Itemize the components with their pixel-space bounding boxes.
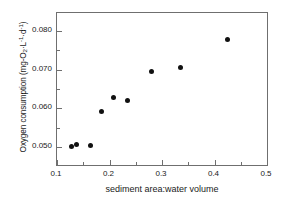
x-axis-tick-label: 0.3	[141, 169, 181, 179]
y-axis-tick-major	[57, 147, 62, 148]
x-axis-tick-major	[57, 160, 58, 165]
y-axis-tick-minor	[57, 128, 60, 129]
y-axis-tick-label: 0.070	[22, 65, 52, 73]
x-axis-tick-label: 0.1	[36, 169, 76, 179]
x-axis-title: sediment area:water volume	[56, 184, 268, 195]
data-point	[99, 109, 104, 114]
data-point	[74, 142, 79, 147]
x-axis-tick-minor	[241, 162, 242, 165]
y-axis-tick-label: 0.060	[22, 103, 52, 111]
x-axis-tick-minor	[188, 162, 189, 165]
y-axis-tick-major	[57, 108, 62, 109]
data-point	[111, 95, 116, 100]
y-axis-tick-minor	[57, 50, 60, 51]
data-point	[69, 144, 74, 149]
data-point	[178, 65, 183, 70]
data-point	[225, 37, 230, 42]
scatter-chart-figure: Oxygen consumption (mg-O2·L-1·d-1) 0.050…	[0, 0, 282, 204]
x-axis-tick-labels: 0.10.20.30.40.5	[56, 169, 268, 181]
data-point	[88, 143, 93, 148]
x-axis-tick-major	[162, 160, 163, 165]
y-axis-tick-minor	[57, 89, 60, 90]
data-point	[149, 69, 154, 74]
x-axis-tick-major	[267, 160, 268, 165]
plot-area	[56, 12, 268, 166]
x-axis-tick-label: 0.5	[246, 169, 282, 179]
x-axis-tick-minor	[136, 162, 137, 165]
x-axis-tick-major	[110, 160, 111, 165]
y-axis-tick-label: 0.080	[22, 26, 52, 34]
x-axis-tick-minor	[83, 162, 84, 165]
y-axis-tick-major	[57, 31, 62, 32]
x-axis-tick-major	[215, 160, 216, 165]
data-point	[125, 98, 130, 103]
x-axis-tick-label: 0.2	[89, 169, 129, 179]
x-axis-tick-label: 0.4	[194, 169, 234, 179]
y-axis-tick-major	[57, 70, 62, 71]
y-axis-tick-label: 0.050	[22, 142, 52, 150]
